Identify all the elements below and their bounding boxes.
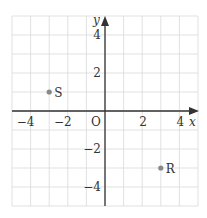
x-tick-label: 2 bbox=[139, 115, 147, 129]
point-dot-icon bbox=[158, 165, 163, 170]
y-tick-label: −2 bbox=[83, 142, 101, 156]
point-label: R bbox=[166, 162, 176, 176]
y-axis-arrow-icon bbox=[101, 16, 109, 26]
x-tick-label: −4 bbox=[17, 115, 35, 129]
y-tick-label: −4 bbox=[83, 180, 101, 194]
x-tick-label: 4 bbox=[176, 115, 184, 129]
y-tick-label: 4 bbox=[93, 28, 101, 42]
points: SR bbox=[47, 86, 176, 176]
coordinate-plane: x y O −4−22442−2−4 SR bbox=[0, 0, 207, 218]
x-axis-label: x bbox=[189, 115, 196, 129]
point-dot-icon bbox=[47, 89, 52, 94]
y-tick-label: 2 bbox=[93, 66, 101, 80]
origin-label: O bbox=[91, 115, 101, 129]
x-tick-label: −2 bbox=[54, 115, 72, 129]
x-axis-arrow-icon bbox=[189, 107, 199, 115]
point-label: S bbox=[54, 86, 62, 100]
axes bbox=[12, 16, 199, 206]
y-axis-label: y bbox=[92, 13, 100, 27]
